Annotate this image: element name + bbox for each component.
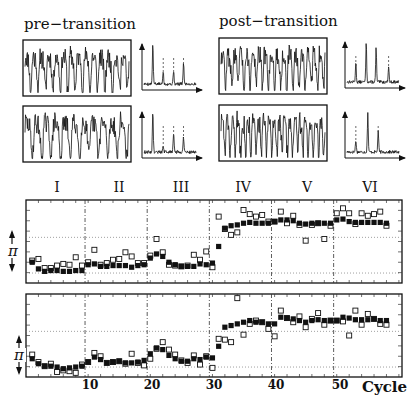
open-square-marker — [365, 213, 370, 218]
lower-y-axis-label: π — [12, 335, 26, 375]
filled-square-marker — [166, 353, 171, 358]
filled-square-marker — [235, 222, 240, 227]
pre-spectrum-1 — [139, 43, 203, 93]
filled-square-marker — [48, 268, 53, 273]
filled-square-marker — [61, 366, 66, 371]
filled-square-marker — [173, 356, 178, 361]
filled-square-marker — [197, 357, 202, 362]
filled-square-marker — [30, 260, 35, 265]
open-square-marker — [266, 326, 271, 331]
open-square-marker — [303, 325, 308, 330]
filled-square-marker — [73, 364, 78, 369]
open-square-marker — [61, 261, 66, 266]
pi-label-lower: π — [13, 346, 25, 364]
segment-label-1: I — [54, 179, 60, 195]
filled-square-marker — [210, 355, 215, 360]
filled-square-marker — [328, 318, 333, 323]
open-square-marker — [229, 232, 234, 237]
open-square-marker — [55, 370, 60, 375]
open-square-marker — [92, 247, 97, 252]
x-tick-10: 10 — [82, 378, 99, 392]
open-square-marker — [36, 256, 41, 261]
open-square-marker — [241, 332, 246, 337]
open-square-marker — [235, 296, 240, 301]
pre-trace-1 — [23, 40, 131, 96]
open-square-marker — [166, 347, 171, 352]
filled-square-marker — [247, 220, 252, 225]
filled-square-marker — [92, 354, 97, 359]
filled-square-marker — [160, 254, 165, 259]
filled-square-marker — [54, 364, 59, 369]
filled-square-marker — [340, 315, 345, 320]
filled-square-marker — [297, 318, 302, 323]
pi-label-upper: π — [7, 242, 19, 260]
filled-square-marker — [222, 226, 227, 231]
filled-square-marker — [54, 268, 59, 273]
filled-square-marker — [117, 359, 122, 364]
filled-square-marker — [179, 359, 184, 364]
filled-square-marker — [129, 265, 134, 270]
post-spectrum-2 — [342, 111, 406, 161]
x-tick-labels: 10 20 30 40 50 — [82, 378, 349, 392]
open-square-marker — [216, 336, 221, 341]
filled-square-marker — [378, 318, 383, 323]
open-square-marker — [334, 211, 339, 216]
pre-spectrum-2 — [139, 111, 203, 161]
filled-square-marker — [347, 219, 352, 224]
filled-square-marker — [79, 268, 84, 273]
filled-square-marker — [185, 359, 190, 364]
open-square-marker — [55, 263, 60, 268]
filled-square-marker — [309, 318, 314, 323]
filled-square-marker — [260, 320, 265, 325]
filled-square-marker — [67, 269, 72, 274]
open-square-marker — [198, 362, 203, 367]
filled-square-marker — [42, 269, 47, 274]
open-square-marker — [253, 214, 258, 219]
filled-square-marker — [359, 317, 364, 322]
open-square-marker — [210, 365, 215, 370]
filled-square-marker — [228, 323, 233, 328]
open-square-marker — [117, 256, 122, 261]
open-square-marker — [191, 252, 196, 257]
x-tick-30: 30 — [206, 378, 223, 392]
filled-square-marker — [365, 220, 370, 225]
segment-label-2: II — [113, 179, 124, 195]
filled-square-marker — [104, 264, 109, 269]
open-square-marker — [278, 209, 283, 214]
filled-square-marker — [79, 364, 84, 369]
filled-square-marker — [353, 317, 358, 322]
open-square-marker — [111, 257, 116, 262]
open-square-marker — [229, 340, 234, 345]
post-trace-1 — [219, 38, 327, 94]
open-square-marker — [365, 311, 370, 316]
open-square-marker — [372, 212, 377, 217]
filled-square-marker — [315, 317, 320, 322]
filled-square-marker — [117, 263, 122, 268]
open-square-marker — [222, 337, 227, 342]
filled-square-marker — [241, 221, 246, 226]
filled-square-marker — [98, 264, 103, 269]
filled-square-marker — [154, 345, 159, 350]
filled-square-marker — [291, 316, 296, 321]
filled-square-marker — [141, 262, 146, 267]
post-spectrum-1 — [342, 41, 406, 91]
filled-square-marker — [48, 364, 53, 369]
figure: pre−transition post−transition I II III … — [0, 0, 416, 406]
post-transition-title: post−transition — [219, 12, 338, 30]
filled-square-marker — [154, 251, 159, 256]
filled-square-marker — [148, 256, 153, 261]
filled-square-marker — [309, 221, 314, 226]
filled-square-marker — [123, 360, 128, 365]
filled-square-marker — [141, 358, 146, 363]
filled-square-marker — [371, 220, 376, 225]
filled-square-marker — [291, 218, 296, 223]
open-square-marker — [353, 308, 358, 313]
x-tick-50: 50 — [332, 378, 349, 392]
filled-square-marker — [228, 223, 233, 228]
filled-square-marker — [334, 318, 339, 323]
pre-trace-2 — [23, 106, 131, 162]
filled-square-marker — [67, 365, 72, 370]
open-square-marker — [142, 363, 147, 368]
filled-square-marker — [110, 359, 115, 364]
filled-square-marker — [384, 221, 389, 226]
